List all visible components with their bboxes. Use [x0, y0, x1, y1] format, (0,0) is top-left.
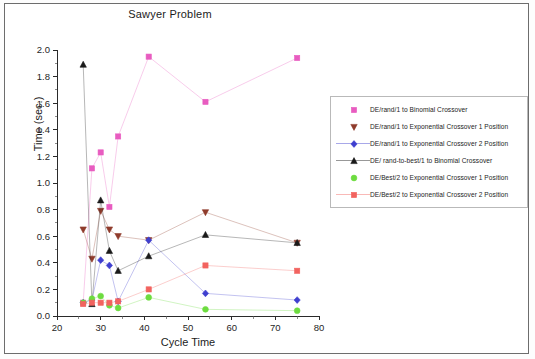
data-point	[106, 262, 112, 269]
series-0	[81, 54, 300, 305]
series-line	[83, 240, 297, 303]
series-1	[80, 208, 300, 262]
legend-marker	[349, 173, 359, 183]
legend-label: DE/rand/1 to Exponential Crossover 2 Pos…	[370, 140, 508, 147]
legend-marker	[349, 190, 359, 200]
legend-item-0[interactable]: DE/rand/1 to Binomial Crossover	[331, 101, 527, 118]
x-tick-label: 60	[226, 322, 237, 333]
diamond-icon	[336, 135, 370, 152]
legend-label: DE/Best/2 to Exponential Crossover 1 Pos…	[370, 174, 508, 181]
y-tick-label: 0.0	[37, 310, 50, 321]
y-tick-label: 1.6	[37, 98, 50, 109]
legend-label: DE/ rand-to-best/1 to Binomial Crossover	[370, 157, 492, 164]
y-tick-label: 0.8	[37, 204, 50, 215]
chart-title: Sawyer Problem	[0, 8, 340, 20]
data-point	[351, 158, 357, 164]
x-tick-label: 80	[314, 322, 325, 333]
series-2	[80, 237, 300, 306]
data-point	[295, 55, 300, 60]
data-point	[351, 175, 357, 181]
data-point	[89, 300, 94, 305]
square-icon	[336, 101, 370, 118]
triangle-down-icon	[336, 118, 370, 135]
data-point	[106, 247, 112, 253]
data-point	[351, 192, 356, 197]
legend-label: DE/rand/1 to Binomial Crossover	[370, 106, 468, 113]
y-tick-label: 0.4	[37, 257, 50, 268]
series-line	[83, 65, 297, 304]
data-point	[351, 124, 357, 130]
legend-marker	[349, 122, 359, 132]
axes: 0.00.20.40.60.81.01.21.41.61.82.02030405…	[37, 44, 325, 333]
legend-item-5[interactable]: DE/Best/2 to Exponential Crossover 2 Pos…	[331, 186, 527, 203]
y-tick-label: 1.2	[37, 151, 50, 162]
data-point	[351, 141, 357, 148]
legend-marker	[349, 139, 359, 149]
series-line	[83, 57, 297, 303]
y-tick-label: 2.0	[37, 44, 50, 55]
series-5	[81, 263, 300, 307]
x-tick-label: 30	[95, 322, 106, 333]
x-tick-label: 40	[139, 322, 150, 333]
data-point	[98, 300, 103, 305]
x-axis-title: Cycle Time	[57, 336, 319, 348]
chart-figure: Sawyer Problem Time (sec.) Cycle Time 0.…	[0, 0, 535, 359]
data-point	[351, 107, 356, 112]
square-icon	[336, 186, 370, 203]
y-tick-label: 1.8	[37, 71, 50, 82]
data-series	[80, 54, 300, 314]
data-point	[202, 231, 208, 237]
x-tick-label: 50	[183, 322, 194, 333]
data-point	[146, 294, 152, 300]
series-line	[83, 265, 297, 304]
y-tick-label: 1.0	[37, 177, 50, 188]
legend-item-4[interactable]: DE/Best/2 to Exponential Crossover 1 Pos…	[331, 169, 527, 186]
series-3	[80, 61, 300, 306]
data-point	[107, 300, 112, 305]
legend-item-1[interactable]: DE/rand/1 to Exponential Crossover 1 Pos…	[331, 118, 527, 135]
data-point	[89, 166, 94, 171]
plot-area: 0.00.20.40.60.81.01.21.41.61.82.02030405…	[57, 50, 319, 316]
data-point	[203, 99, 208, 104]
data-point	[203, 263, 208, 268]
data-point	[294, 297, 300, 304]
chart-legend: DE/rand/1 to Binomial CrossoverDE/rand/1…	[330, 96, 528, 208]
data-point	[146, 287, 151, 292]
data-point	[107, 204, 112, 209]
legend-item-2[interactable]: DE/rand/1 to Exponential Crossover 2 Pos…	[331, 135, 527, 152]
legend-item-3[interactable]: DE/ rand-to-best/1 to Binomial Crossover	[331, 152, 527, 169]
data-point	[146, 54, 151, 59]
legend-marker	[349, 156, 359, 166]
series-4	[80, 293, 300, 313]
data-point	[98, 293, 104, 299]
y-tick-label: 1.4	[37, 124, 50, 135]
data-point	[81, 301, 86, 306]
triangle-up-icon	[336, 152, 370, 169]
circle-icon	[336, 169, 370, 186]
y-tick-label: 0.6	[37, 231, 50, 242]
legend-label: DE/Best/2 to Exponential Crossover 2 Pos…	[370, 191, 508, 198]
data-point	[89, 256, 95, 262]
data-point	[203, 306, 209, 312]
legend-label: DE/rand/1 to Exponential Crossover 1 Pos…	[370, 123, 508, 130]
x-tick-label: 20	[52, 322, 63, 333]
y-tick-label: 0.2	[37, 284, 50, 295]
data-point	[116, 134, 121, 139]
data-point	[146, 253, 152, 259]
data-point	[80, 61, 86, 67]
data-point	[80, 227, 86, 233]
data-point	[116, 299, 121, 304]
x-tick-label: 70	[270, 322, 281, 333]
data-point	[97, 197, 103, 203]
legend-marker	[349, 105, 359, 115]
data-point	[295, 268, 300, 273]
plot-canvas: 0.00.20.40.60.81.01.21.41.61.82.02030405…	[57, 50, 319, 316]
data-point	[98, 150, 103, 155]
data-point	[115, 267, 121, 273]
data-point	[294, 308, 300, 314]
data-point	[98, 257, 104, 264]
data-point	[115, 305, 121, 311]
data-point	[106, 227, 112, 233]
